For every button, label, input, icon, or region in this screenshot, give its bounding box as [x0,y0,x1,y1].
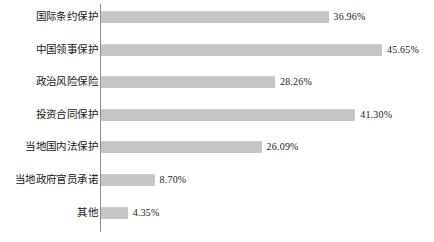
bar-value-label: 36.96% [334,6,366,28]
bar-fill [101,44,382,56]
bar-row: 中国领事保护45.65% [0,39,434,61]
bar [101,207,128,219]
category-label: 当地国内法保护 [25,136,98,158]
bar [101,11,329,23]
bar-fill [101,141,262,153]
category-label: 当地政府官员承诺 [15,169,98,191]
category-label: 中国领事保护 [36,39,98,61]
bar-fill [101,207,128,219]
plot-area: 国际条约保护36.96%中国领事保护45.65%政治风险保险28.26%投资合同… [0,0,434,242]
horizontal-bar-chart: 国际条约保护36.96%中国领事保护45.65%政治风险保险28.26%投资合同… [0,0,434,242]
category-label: 国际条约保护 [36,6,98,28]
bar-series: 国际条约保护36.96%中国领事保护45.65%政治风险保险28.26%投资合同… [0,0,434,242]
bar-value-label: 8.70% [160,169,187,191]
category-label: 其他 [77,202,98,224]
bar-row: 当地政府官员承诺8.70% [0,169,434,191]
bar-row: 国际条约保护36.96% [0,6,434,28]
category-label: 政治风险保险 [36,71,98,93]
bar-row: 其他4.35% [0,202,434,224]
bar-fill [101,11,329,23]
bar-row: 当地国内法保护26.09% [0,136,434,158]
bar-value-label: 45.65% [387,39,419,61]
bar [101,76,275,88]
bar-value-label: 41.30% [360,104,392,126]
bar-fill [101,109,355,121]
bar-row: 投资合同保护41.30% [0,104,434,126]
category-label: 投资合同保护 [36,104,98,126]
bar [101,141,262,153]
bar [101,109,355,121]
bar-fill [101,174,155,186]
bar [101,174,155,186]
bar-fill [101,76,275,88]
bar-value-label: 28.26% [280,71,312,93]
bar-row: 政治风险保险28.26% [0,71,434,93]
bar-value-label: 26.09% [267,136,299,158]
bar [101,44,382,56]
bar-value-label: 4.35% [133,202,160,224]
